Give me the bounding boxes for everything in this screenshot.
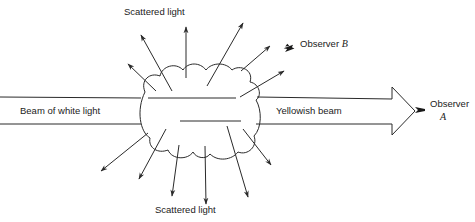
incident-beam-label: Beam of white light <box>20 106 100 116</box>
observer-b-label: Observer B <box>300 39 348 49</box>
observer-b-word: Observer <box>300 38 339 49</box>
scattering-medium-cloud <box>140 64 260 159</box>
transmitted-beam-label: Yellowish beam <box>276 106 342 116</box>
eye-icon <box>415 107 425 113</box>
eye-icon <box>283 42 295 52</box>
observer-a-letter: A <box>440 112 446 122</box>
observer-a-word: Observer <box>430 99 469 109</box>
scattered-light-bottom-label: Scattered light <box>155 205 216 215</box>
observer-b-letter: B <box>342 38 348 49</box>
light-scattering-diagram: Scattered light Observer B Beam of white… <box>0 0 475 222</box>
scattered-light-top-label: Scattered light <box>124 7 185 17</box>
